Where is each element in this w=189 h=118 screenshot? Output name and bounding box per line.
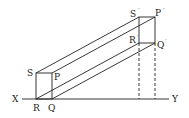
axis-label-x: X — [12, 94, 19, 104]
vertex-label-Q: Q — [48, 103, 55, 113]
vertex-label-S-prime: S — [130, 9, 136, 19]
vertex-label-P-prime: P — [155, 8, 161, 18]
diagram-canvas: X Y S P R Q S ´ P ´ R ´ Q ´ — [0, 0, 189, 118]
vertex-label-P: P — [54, 72, 60, 82]
edge-Q-Qprime — [52, 43, 155, 99]
edge-P-Pprime — [52, 17, 155, 73]
prism-projection-diagram: X Y S P R Q S ´ P ´ R ´ Q ´ — [0, 0, 189, 118]
axis-label-y: Y — [171, 94, 179, 104]
edge-R-Rprime — [36, 43, 139, 99]
prime-mark-Q: ´ — [164, 38, 167, 45]
prime-mark-R: ´ — [136, 34, 139, 41]
edge-S-Sprime — [36, 17, 139, 73]
vertex-label-S: S — [27, 68, 33, 78]
vertex-label-R-prime: R — [129, 35, 136, 45]
prime-mark-S: ´ — [137, 7, 140, 14]
vertex-label-R: R — [33, 103, 40, 113]
prime-mark-P: ´ — [162, 7, 165, 14]
